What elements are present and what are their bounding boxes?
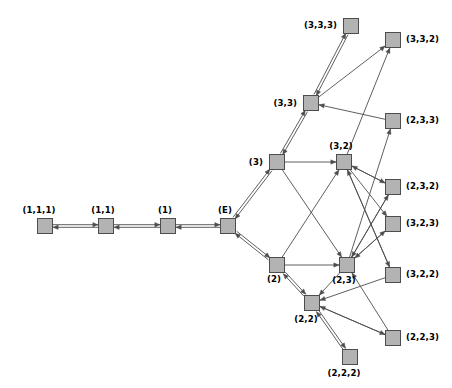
- arrowhead: [114, 225, 119, 229]
- graph-node-n333[interactable]: [344, 19, 359, 34]
- edge: [285, 160, 336, 164]
- graph-node-n323[interactable]: [386, 217, 401, 232]
- edge-line: [235, 171, 272, 219]
- edge-line: [237, 231, 270, 257]
- edge-line: [352, 273, 388, 330]
- graph-node-n22[interactable]: [305, 296, 320, 311]
- node-label-n333: (3,3,3): [304, 20, 337, 30]
- node-label-n22: (2,2): [294, 314, 318, 324]
- graph-node-n23[interactable]: [340, 258, 355, 273]
- edge-line: [352, 166, 385, 183]
- node-label-n3: (3): [249, 157, 263, 167]
- labels-layer: (1,1,1)(1,1)(1)(E)(3)(2)(3,3)(3,2)(2,3)(…: [22, 20, 439, 378]
- arrowhead: [316, 90, 320, 96]
- edge: [317, 310, 346, 350]
- arrowhead: [387, 129, 391, 135]
- arrowhead: [215, 223, 220, 227]
- edge: [314, 33, 348, 95]
- graph-node-n33[interactable]: [304, 96, 319, 111]
- edge-line: [350, 170, 387, 216]
- arrowhead: [283, 149, 288, 155]
- edge: [176, 223, 220, 230]
- graph-node-n322[interactable]: [386, 268, 401, 283]
- edge: [285, 263, 339, 267]
- arrowhead: [301, 110, 306, 116]
- node-label-n232: (2,3,2): [406, 181, 439, 191]
- edge-line: [350, 129, 391, 257]
- node-label-n32: (3,2): [329, 141, 353, 151]
- edge-line: [235, 233, 268, 259]
- nodes-layer: [38, 19, 401, 365]
- arrowhead: [319, 104, 325, 108]
- edge: [319, 104, 385, 120]
- edge-line: [283, 112, 308, 155]
- graph-node-n222[interactable]: [343, 350, 358, 365]
- arrowhead: [176, 225, 181, 229]
- graph-node-n2[interactable]: [270, 258, 285, 273]
- edge-line: [319, 105, 385, 120]
- arrowhead: [341, 33, 345, 39]
- edge-line: [282, 170, 341, 257]
- graph-node-n232[interactable]: [386, 180, 401, 195]
- edge-line: [282, 170, 339, 257]
- arrowhead: [155, 223, 160, 227]
- node-label-n233: (2,3,3): [406, 115, 439, 125]
- arrowhead: [352, 166, 358, 170]
- edge: [282, 170, 339, 257]
- edge: [352, 166, 385, 183]
- graph-node-n11[interactable]: [99, 219, 114, 234]
- arrowhead: [386, 48, 390, 54]
- node-label-n11: (1,1): [91, 205, 115, 215]
- edge-line: [280, 110, 305, 153]
- node-label-n323: (3,2,3): [406, 218, 439, 228]
- graph-node-n233[interactable]: [386, 114, 401, 129]
- edge: [352, 273, 388, 330]
- node-label-n332: (3,3,2): [406, 34, 439, 44]
- edge: [350, 170, 387, 216]
- node-label-n222: (2,2,2): [327, 368, 360, 378]
- edge: [282, 170, 341, 257]
- node-label-nE: (E): [218, 205, 232, 215]
- graph-node-n223[interactable]: [386, 331, 401, 346]
- graph-node-n32[interactable]: [337, 155, 352, 170]
- arrowhead: [337, 252, 342, 258]
- graph-node-n332[interactable]: [386, 33, 401, 48]
- edge: [283, 272, 305, 296]
- edge-line: [347, 48, 390, 154]
- graph-node-n111[interactable]: [38, 219, 53, 234]
- edge: [53, 223, 98, 230]
- state-transition-graph: (1,1,1)(1,1)(1)(E)(3)(2)(3,3)(3,2)(2,3)(…: [0, 0, 452, 388]
- edge-line: [314, 33, 346, 94]
- arrowhead: [320, 306, 326, 310]
- graph-node-nE[interactable]: [221, 219, 236, 234]
- edge: [347, 48, 390, 154]
- node-label-n322: (3,2,2): [406, 269, 439, 279]
- graph-node-n1[interactable]: [161, 219, 176, 234]
- edge: [233, 169, 272, 219]
- edge: [350, 129, 391, 257]
- arrowhead: [93, 223, 98, 227]
- edge-line: [317, 312, 344, 350]
- graph-canvas: (1,1,1)(1,1)(1)(E)(3)(2)(3,3)(3,2)(2,3)(…: [0, 0, 452, 388]
- edge: [235, 231, 270, 259]
- edge-line: [352, 195, 389, 257]
- graph-node-n3[interactable]: [270, 155, 285, 170]
- arrowhead: [334, 263, 339, 267]
- node-label-n23: (2,3): [332, 275, 356, 285]
- arrowhead: [53, 225, 58, 229]
- edge: [352, 195, 389, 257]
- edges-layer: [53, 33, 391, 350]
- arrowhead: [320, 296, 326, 300]
- node-label-n1: (1): [158, 205, 172, 215]
- node-label-n223: (2,2,3): [406, 332, 439, 342]
- node-label-n111: (1,1,1): [22, 205, 55, 215]
- arrowhead: [380, 46, 385, 51]
- arrowhead: [334, 170, 339, 176]
- edge: [280, 110, 307, 154]
- node-label-n2: (2): [267, 274, 281, 284]
- edge-line: [233, 169, 270, 217]
- node-label-n33: (3,3): [273, 98, 297, 108]
- arrowhead: [331, 160, 336, 164]
- edge: [114, 223, 160, 230]
